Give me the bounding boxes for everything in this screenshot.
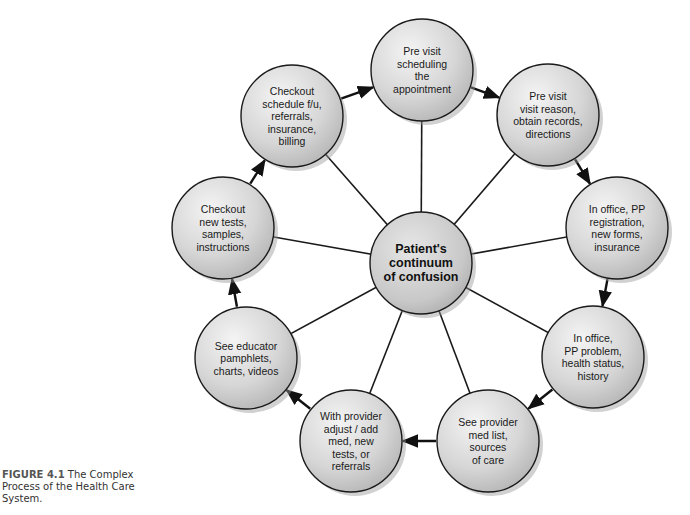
flow-arrow [603, 279, 608, 306]
node-checkout-schedule: Checkoutschedule f/u,referrals,insurance… [241, 65, 347, 171]
node-label-line: continuum [389, 256, 453, 270]
node-label-line: health status, [562, 357, 624, 369]
node-label-line: med, new [328, 435, 374, 447]
node-label-line: the [415, 70, 430, 82]
node-label-line: insurance [594, 241, 640, 253]
node-pre-visit-reason: Pre visitvisit reason,obtain records,dir… [497, 64, 603, 170]
continuum-diagram: Pre visitschedulingtheappointmentPre vis… [0, 0, 690, 515]
node-label-line: schedule f/u, [262, 98, 322, 110]
node-label-line: Pre visit [529, 90, 566, 102]
node-label-line: new tests, [199, 216, 246, 228]
node-label-line: tests, or [332, 448, 370, 460]
center-node: Patient'scontinuumof confusion [370, 212, 476, 318]
figure-caption: FIGURE 4.1 The Complex Process of the He… [2, 469, 172, 505]
center-circle: Patient'scontinuumof confusion [370, 212, 476, 318]
node-label-line: In office, PP [589, 203, 645, 215]
node-label-line: instructions [196, 241, 249, 253]
node-label-line: PP problem, [564, 345, 622, 357]
node-label-line: of care [472, 454, 504, 466]
node-label-line: charts, videos [214, 365, 279, 377]
node-label-line: obtain records, [513, 115, 582, 127]
node-see-provider: See providermed list,sourcesof care [437, 390, 543, 496]
node-label-line: directions [526, 128, 571, 140]
node-label-line: pamphlets, [220, 352, 271, 364]
flow-arrow [250, 160, 264, 183]
node-label-line: Patient's [395, 242, 447, 256]
flow-arrow [529, 389, 553, 408]
node-label-line: sources [470, 441, 507, 453]
node-in-office-registration: In office, PPregistration,new forms,insu… [566, 177, 672, 283]
flow-arrow [341, 87, 373, 98]
node-pre-visit-scheduling: Pre visitschedulingtheappointment [371, 19, 477, 125]
node-label-line: With provider [320, 410, 382, 422]
node-label-line: insurance, [268, 123, 316, 135]
node-checkout-new-tests: Checkoutnew tests,samples,instructions [172, 177, 278, 283]
node-label-line: adjust / add [324, 423, 378, 435]
node-label-line: visit reason, [520, 103, 576, 115]
node-label-line: In office, [573, 332, 613, 344]
node-label-line: See educator [215, 340, 278, 352]
node-label-line: billing [279, 135, 306, 147]
node-label-line: Checkout [270, 85, 314, 97]
node-label-line: See provider [458, 416, 518, 428]
node-label-line: referrals, [271, 110, 312, 122]
flow-arrow [471, 87, 499, 97]
flow-arrow [232, 279, 237, 307]
node-label-line: Pre visit [403, 45, 440, 57]
node-label-line: scheduling [397, 58, 447, 70]
node-label-line: appointment [393, 83, 451, 95]
node-label-line: history [578, 370, 610, 382]
node-label-line: Checkout [201, 203, 245, 215]
node-label-line: of confusion [384, 270, 459, 284]
node-in-office-problem: In office,PP problem,health status,histo… [542, 306, 648, 412]
node-label-line: referrals [332, 460, 371, 472]
node-label-line: new forms, [591, 228, 642, 240]
node-see-educator: See educatorpamphlets,charts, videos [195, 307, 301, 413]
node-with-provider: With provideradjust / addmed, newtests, … [300, 390, 406, 496]
node-label-line: samples, [202, 228, 244, 240]
figure-label: FIGURE 4.1 [2, 469, 65, 480]
node-label-line: med list, [468, 429, 507, 441]
node-label-line: registration, [590, 216, 645, 228]
